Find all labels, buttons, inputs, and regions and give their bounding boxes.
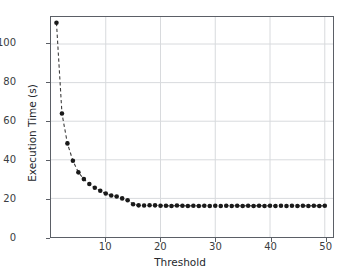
y-tick-mark [46, 199, 50, 200]
x-tick-label: 40 [264, 242, 277, 252]
data-point [197, 204, 202, 209]
plot-area [50, 16, 334, 238]
y-tick-mark [46, 43, 50, 44]
data-point [273, 204, 278, 209]
data-point [246, 203, 251, 208]
y-tick-mark [46, 82, 50, 83]
data-point [235, 203, 240, 208]
data-point [229, 204, 234, 209]
data-point [98, 188, 103, 193]
data-point [284, 204, 289, 209]
x-tick-label: 30 [209, 242, 222, 252]
data-point [218, 204, 223, 209]
data-point [169, 204, 174, 209]
data-point [295, 204, 300, 209]
y-tick-label: 60 [3, 116, 16, 126]
x-tick-mark [326, 238, 327, 242]
y-tick-mark [46, 121, 50, 122]
data-point [317, 204, 322, 209]
x-tick-mark [215, 238, 216, 242]
data-point [290, 203, 295, 208]
data-point [60, 111, 65, 116]
y-tick-label: 80 [3, 77, 16, 87]
y-tick-label: 40 [3, 155, 16, 165]
data-point [208, 204, 213, 209]
data-point [262, 204, 267, 209]
data-point [142, 203, 147, 208]
y-tick-mark [46, 160, 50, 161]
data-point [202, 203, 207, 208]
data-point [65, 141, 70, 146]
x-tick-mark [105, 238, 106, 242]
data-point [120, 196, 125, 201]
data-series-scatter [51, 17, 333, 237]
data-point [158, 203, 163, 208]
data-point [164, 203, 169, 208]
data-point [103, 191, 108, 196]
data-point [54, 21, 59, 26]
data-point [87, 182, 92, 187]
data-point [76, 170, 81, 175]
data-point [251, 204, 256, 209]
y-axis-label: Execution Time (s) [26, 53, 38, 213]
data-point [186, 204, 191, 209]
data-point [306, 204, 311, 209]
y-tick-mark [46, 238, 50, 239]
data-point [257, 203, 262, 208]
x-axis-label: Threshold [0, 256, 360, 268]
data-point [180, 203, 185, 208]
x-tick-mark [271, 238, 272, 242]
data-point [147, 203, 152, 208]
data-point [71, 158, 76, 163]
data-point [301, 203, 306, 208]
data-point [191, 203, 196, 208]
data-point [279, 203, 284, 208]
data-point [114, 194, 119, 199]
data-point [93, 186, 98, 191]
y-tick-label: 20 [3, 194, 16, 204]
data-point [131, 202, 136, 207]
x-tick-label: 50 [319, 242, 332, 252]
data-point [323, 203, 328, 208]
x-tick-label: 10 [99, 242, 112, 252]
data-point [240, 204, 245, 209]
data-point [312, 203, 317, 208]
data-point [175, 203, 180, 208]
chart-figure: 020406080100 1020304050 Threshold Execut… [0, 0, 360, 278]
data-point [224, 203, 229, 208]
data-point [109, 193, 114, 198]
data-point [125, 198, 130, 203]
data-point [268, 203, 273, 208]
x-tick-mark [160, 238, 161, 242]
data-point [153, 203, 158, 208]
y-tick-label: 0 [10, 233, 16, 243]
data-point [136, 203, 141, 208]
data-point [213, 203, 218, 208]
y-tick-label: 100 [0, 38, 16, 48]
data-point [82, 177, 87, 182]
x-tick-label: 20 [154, 242, 167, 252]
